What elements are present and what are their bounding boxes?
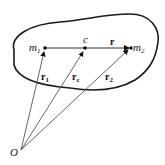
label-r: r xyxy=(110,36,115,47)
label-m1: m1 xyxy=(29,41,40,55)
label-origin: O xyxy=(10,146,18,158)
label-r1: r1 xyxy=(41,71,49,84)
diagram-canvas: m1 c m2 O r r1 rc r2 xyxy=(0,0,165,165)
point-c xyxy=(83,46,87,50)
label-m2: m2 xyxy=(133,41,145,55)
label-c: c xyxy=(83,33,88,45)
label-r2: r2 xyxy=(105,71,113,84)
label-rc: rc xyxy=(72,71,80,84)
point-m1 xyxy=(43,46,47,50)
vector-r1 xyxy=(21,52,44,150)
